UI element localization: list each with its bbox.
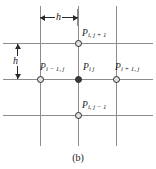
node-label-p-i-j-minus-1: Pi, j − 1	[82, 101, 106, 111]
node-label-subscript: i j	[89, 65, 94, 72]
node-p-i-minus-1-j	[37, 76, 44, 83]
node-p-i-j-plus-1	[75, 40, 82, 47]
node-label-subscript: i, j − 1	[88, 103, 107, 110]
arrow-right-icon	[73, 15, 78, 21]
node-label-p-i-minus-1-j: Pi − 1, j	[40, 63, 64, 73]
node-label-subscript: i, j + 1	[88, 31, 107, 38]
arrow-left-icon	[40, 15, 45, 21]
node-label-p-i-plus-1-j: Pi + 1, j	[115, 63, 139, 73]
arrow-down-icon	[15, 74, 21, 79]
node-p-i-j	[75, 76, 82, 83]
arrow-up-icon	[15, 44, 21, 49]
node-label-p-i-j: Pi j	[83, 63, 94, 73]
node-p-i-j-minus-1	[75, 112, 82, 119]
node-label-subscript: i + 1, j	[121, 65, 140, 72]
figure-caption: (b)	[0, 153, 156, 163]
node-label-subscript: i − 1, j	[46, 65, 65, 72]
dimension-horizontal-label: h	[55, 12, 62, 22]
figure-finite-difference-grid: h h Pi, j + 1 Pi − 1, j Pi j Pi + 1, j P…	[0, 0, 156, 169]
node-p-i-plus-1-j	[113, 76, 120, 83]
node-label-p-i-j-plus-1: Pi, j + 1	[82, 29, 106, 39]
dimension-vertical-label: h	[12, 56, 19, 66]
